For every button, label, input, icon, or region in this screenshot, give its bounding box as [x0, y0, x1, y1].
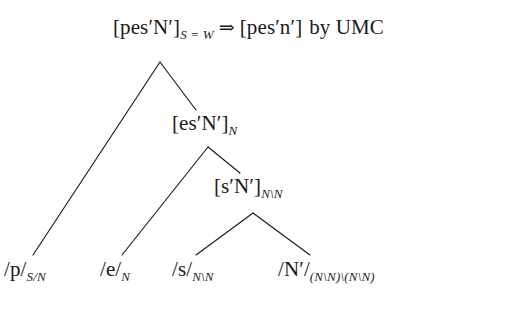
leaf-n-subscript: (N\N)\(N\N)	[310, 269, 375, 284]
root-node-line: [pes′N′]S = W⇒[pes′n′]by UMC	[113, 17, 384, 41]
leaf-node-p: /p/S/N	[4, 259, 46, 283]
node-level2-form: [es′N′]	[172, 111, 229, 135]
node-level2-subscript: N	[229, 123, 238, 138]
root-subscript: S = W	[180, 27, 214, 42]
leaf-node-e: /e/N	[100, 259, 130, 283]
node-level2: [es′N′]N	[172, 113, 237, 137]
leaf-e-form: /e/	[100, 257, 121, 281]
root-output: [pes′n′]	[240, 15, 302, 39]
edge-root-to-level2	[160, 62, 196, 110]
leaf-n-form: /N′/	[278, 257, 310, 281]
leaf-node-n-prime: /N′/(N\N)\(N\N)	[278, 259, 375, 283]
node-level3: [s′N′]N\N	[214, 176, 283, 200]
edge-level3-to-s	[196, 213, 253, 255]
edge-level3-to-n	[253, 213, 310, 255]
edge-level2-to-level3	[208, 147, 240, 173]
leaf-e-subscript: N	[121, 269, 130, 284]
root-form: [pes′N′]	[113, 15, 180, 39]
leaf-p-form: /p/	[4, 257, 26, 281]
root-rule-text: by UMC	[302, 15, 384, 39]
leaf-node-s: /s/N\N	[172, 259, 214, 283]
edge-level2-to-e	[122, 147, 208, 255]
leaf-p-subscript: S/N	[26, 269, 45, 284]
tree-branch-lines	[0, 0, 515, 309]
implies-arrow: ⇒	[214, 17, 240, 38]
node-level3-form: [s′N′]	[214, 174, 261, 198]
leaf-s-subscript: N\N	[192, 269, 214, 284]
edge-root-to-p	[33, 62, 160, 255]
node-level3-subscript: N\N	[261, 186, 283, 201]
leaf-s-form: /s/	[172, 257, 192, 281]
